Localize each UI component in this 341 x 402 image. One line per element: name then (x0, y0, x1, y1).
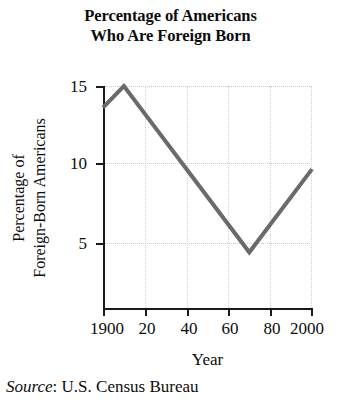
x-tick-label-1920: 20 (139, 320, 156, 337)
source-value: U.S. Census Bureau (62, 377, 199, 396)
y-axis-title-line-2: Foreign-Born Americans (29, 86, 50, 310)
y-axis-title-line-1: Percentage of (8, 86, 29, 310)
chart-title-line-1: Percentage of Americans (0, 6, 341, 26)
x-tick-label-1940: 40 (181, 320, 198, 337)
data-series-line (103, 86, 312, 310)
x-axis-title: Year (103, 350, 312, 369)
plot-area: 15 10 5 1900 20 40 60 80 2000 (103, 86, 312, 310)
x-tick-label-1980: 80 (264, 320, 281, 337)
chart-title-line-2: Who Are Foreign Born (0, 26, 341, 46)
x-tick-label-2000: 2000 (290, 320, 324, 337)
source-separator: : (53, 377, 58, 396)
y-tick-label-10: 10 (70, 155, 87, 172)
y-tick-label-5: 5 (79, 235, 88, 252)
source-note: Source: U.S. Census Bureau (6, 377, 199, 397)
chart-title: Percentage of Americans Who Are Foreign … (0, 6, 341, 46)
y-tick-label-15: 15 (70, 78, 87, 95)
source-label: Source (6, 377, 53, 396)
x-tick-label-1900: 1900 (90, 320, 124, 337)
x-tick-label-1960: 60 (222, 320, 239, 337)
y-axis-title: Percentage of Foreign-Born Americans (8, 86, 56, 310)
